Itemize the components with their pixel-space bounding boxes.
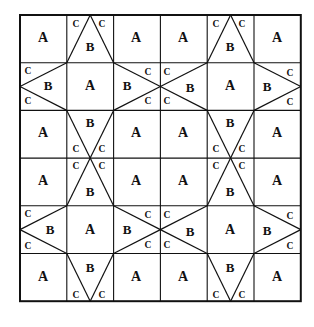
piece-label-a: A xyxy=(85,222,96,237)
piece-label-c: C xyxy=(287,211,294,221)
piece-label-c: C xyxy=(73,19,80,29)
piece-label-b: B xyxy=(86,260,95,275)
piece-label-b: B xyxy=(86,184,95,199)
piece-label-c: C xyxy=(73,290,80,300)
piece-label-b: B xyxy=(46,222,55,237)
piece-label-a: A xyxy=(131,30,142,45)
piece-label-c: C xyxy=(99,290,106,300)
piece-label-c: C xyxy=(99,19,106,29)
piece-label-c: C xyxy=(25,209,32,219)
tiling-figure: ACCBAACCBACBCABCCCCBABCCABCCAABCCACCABAA… xyxy=(0,0,314,327)
piece-label-a: A xyxy=(85,78,96,93)
piece-label-a: A xyxy=(38,173,49,188)
piece-label-c: C xyxy=(25,241,32,251)
piece-label-b: B xyxy=(186,224,195,239)
piece-label-c: C xyxy=(25,96,32,106)
piece-label-c: C xyxy=(164,210,171,220)
tiling-svg: ACCBAACCBACBCABCCCCBABCCABCCAABCCACCABAA… xyxy=(0,0,314,327)
piece-label-a: A xyxy=(38,269,49,284)
piece-label-a: A xyxy=(272,173,283,188)
piece-label-c: C xyxy=(213,161,220,171)
piece-label-c: C xyxy=(287,241,294,251)
piece-label-c: C xyxy=(145,96,152,106)
piece-label-c: C xyxy=(25,66,32,76)
piece-label-c: C xyxy=(73,161,80,171)
piece-label-c: C xyxy=(145,240,152,250)
piece-label-a: A xyxy=(178,173,189,188)
piece-label-b: B xyxy=(44,78,53,93)
piece-label-a: A xyxy=(272,125,283,140)
piece-label-a: A xyxy=(131,125,142,140)
piece-label-c: C xyxy=(239,290,246,300)
piece-label-c: C xyxy=(145,67,152,77)
piece-label-b: B xyxy=(186,80,195,95)
piece-label-a: A xyxy=(225,78,236,93)
piece-label-a: A xyxy=(178,269,189,284)
piece-label-b: B xyxy=(226,184,235,199)
piece-label-b: B xyxy=(263,79,272,94)
piece-label-c: C xyxy=(164,67,171,77)
piece-label-c: C xyxy=(213,19,220,29)
piece-label-a: A xyxy=(131,269,142,284)
piece-label-a: A xyxy=(178,30,189,45)
piece-label-c: C xyxy=(145,210,152,220)
figure-stage: ACCBAACCBACBCABCCCCBABCCABCCAABCCACCABAA… xyxy=(0,0,314,327)
piece-label-b: B xyxy=(226,260,235,275)
piece-label-c: C xyxy=(164,96,171,106)
piece-label-a: A xyxy=(38,125,49,140)
piece-label-c: C xyxy=(99,144,106,154)
piece-label-b: B xyxy=(123,78,132,93)
piece-label-a: A xyxy=(131,173,142,188)
piece-label-c: C xyxy=(213,290,220,300)
piece-label-b: B xyxy=(86,115,95,130)
piece-label-c: C xyxy=(287,68,294,78)
piece-label-c: C xyxy=(213,144,220,154)
piece-label-a: A xyxy=(272,269,283,284)
piece-label-c: C xyxy=(239,19,246,29)
piece-label-c: C xyxy=(73,144,80,154)
piece-label-a: A xyxy=(38,30,49,45)
piece-label-a: A xyxy=(225,222,236,237)
piece-label-c: C xyxy=(287,97,294,107)
piece-label-b: B xyxy=(86,39,95,54)
piece-label-a: A xyxy=(272,30,283,45)
piece-label-a: A xyxy=(178,125,189,140)
piece-label-b: B xyxy=(226,39,235,54)
piece-label-b: B xyxy=(123,222,132,237)
piece-label-c: C xyxy=(239,161,246,171)
piece-label-c: C xyxy=(239,144,246,154)
piece-label-b: B xyxy=(226,115,235,130)
piece-label-c: C xyxy=(164,240,171,250)
piece-label-b: B xyxy=(263,223,272,238)
piece-label-c: C xyxy=(99,161,106,171)
